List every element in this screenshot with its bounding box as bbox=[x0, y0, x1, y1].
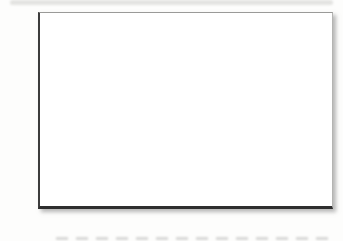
bar-slot-most-of-them bbox=[40, 13, 98, 206]
bar-slot-dont-know bbox=[274, 13, 332, 206]
bars bbox=[40, 13, 332, 206]
bar-slot-just-one bbox=[157, 13, 215, 206]
plot-area bbox=[38, 12, 333, 209]
bar-chart-figure bbox=[0, 0, 343, 241]
cropped-caption-fragment bbox=[56, 237, 331, 240]
y-axis-tick-labels bbox=[0, 12, 34, 205]
scan-artifact bbox=[10, 0, 333, 5]
bar-slot-some-of-them bbox=[98, 13, 156, 206]
bar-slot-none bbox=[215, 13, 273, 206]
